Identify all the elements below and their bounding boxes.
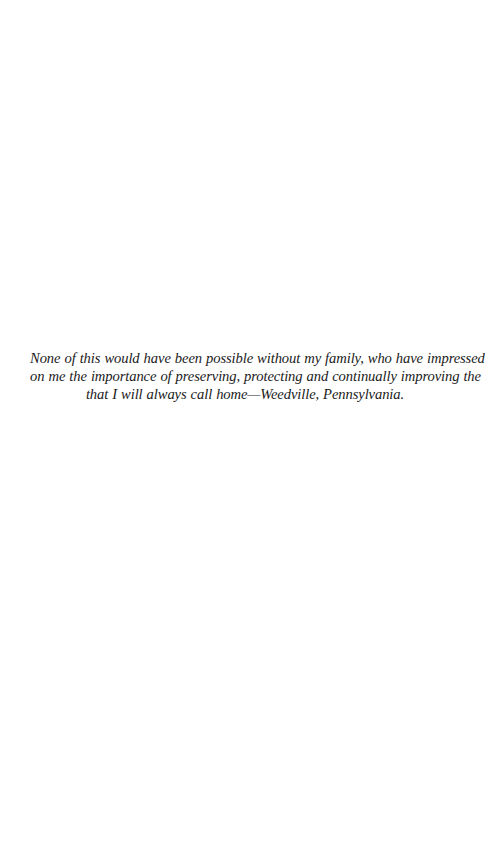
dedication-line-1: None of this would have been possible wi…	[30, 349, 460, 367]
dedication-line-3: that I will always call home—Weedville, …	[30, 385, 460, 403]
dedication-text: None of this would have been possible wi…	[30, 349, 460, 403]
dedication-line-2: on me the importance of preserving, prot…	[30, 367, 460, 385]
book-page: None of this would have been possible wi…	[0, 0, 485, 864]
